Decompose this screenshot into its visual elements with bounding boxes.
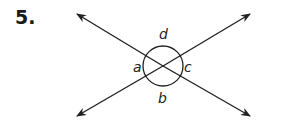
angle-label-b: b (158, 90, 167, 106)
line-descending-ext (163, 66, 250, 116)
figure-canvas: 5. d a c b (0, 0, 283, 127)
line-ascending-ext (163, 14, 250, 66)
intersecting-lines-diagram: d a c b (0, 0, 283, 127)
line-ascending (77, 66, 163, 116)
angle-label-a: a (133, 59, 142, 75)
angle-label-c: c (184, 59, 192, 75)
angle-label-d: d (159, 26, 168, 42)
line-descending (77, 14, 163, 66)
